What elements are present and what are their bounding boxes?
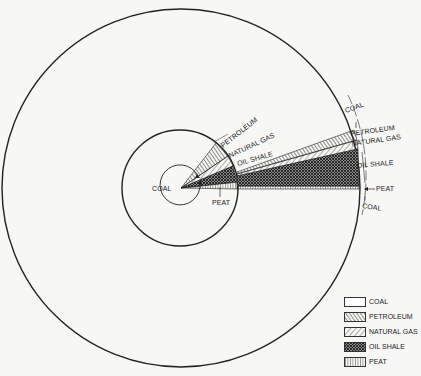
natural-gas-swatch xyxy=(344,327,366,337)
outer-oil-shale-label: OIL SHALE xyxy=(356,159,394,169)
legend-label: NATURAL GAS xyxy=(369,328,418,335)
legend-item-natural-gas: NATURAL GAS xyxy=(344,324,421,339)
legend: COAL PETROLEUM NATURAL GAS OIL SHALE PEA… xyxy=(344,294,421,369)
legend-label: PEAT xyxy=(369,358,387,365)
petroleum-swatch xyxy=(344,312,366,322)
inner-coal-label: COAL xyxy=(152,185,171,192)
legend-label: PETROLEUM xyxy=(369,313,413,320)
outer-peat-wedge xyxy=(237,186,359,189)
oil-shale-swatch xyxy=(344,342,366,352)
outer-coal-top-label: COAL xyxy=(344,101,365,114)
inner-pie-wedges xyxy=(181,143,238,189)
legend-item-oil-shale: OIL SHALE xyxy=(344,339,421,354)
peat-swatch xyxy=(344,357,366,367)
legend-label: OIL SHALE xyxy=(369,343,405,350)
legend-item-petroleum: PETROLEUM xyxy=(344,309,421,324)
legend-item-peat: PEAT xyxy=(344,354,421,369)
outer-peat-label: PEAT xyxy=(376,185,395,192)
inner-peat-label: PEAT xyxy=(212,199,231,206)
legend-item-coal: COAL xyxy=(344,294,421,309)
outer-coal-bottom-label: COAL xyxy=(362,202,382,212)
coal-swatch xyxy=(344,297,366,307)
legend-label: COAL xyxy=(369,298,388,305)
